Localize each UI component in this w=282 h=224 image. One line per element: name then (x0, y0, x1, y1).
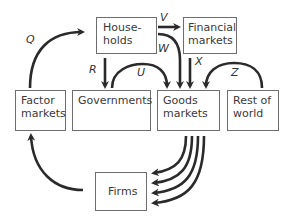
arrow-q (30, 32, 82, 88)
label-u: U (137, 67, 145, 78)
node-rest-of-world: Rest of world (227, 90, 279, 131)
label-z: Z (231, 67, 239, 78)
arrow-goods-firms-1 (154, 136, 186, 173)
label-x: X (195, 56, 203, 67)
arrow-firms-factor (31, 136, 83, 190)
node-firms: Firms (95, 172, 147, 211)
node-goods-markets: Goods markets (157, 90, 220, 131)
node-households: House- holds (96, 17, 157, 54)
label-w: W (158, 43, 169, 54)
label-v: V (160, 12, 168, 23)
label-r: R (89, 64, 97, 75)
node-governments: Governments (72, 90, 151, 131)
label-q: Q (26, 34, 35, 45)
node-financial-markets: Financial markets (183, 17, 237, 54)
node-factor-markets: Factor markets (15, 90, 66, 131)
